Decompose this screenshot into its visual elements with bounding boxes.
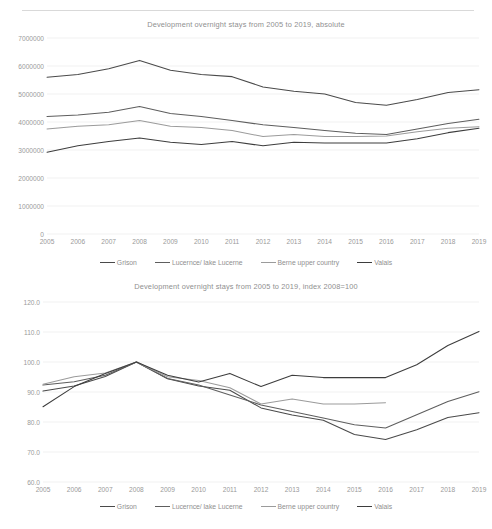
series-line-1 <box>47 107 479 135</box>
legend-swatch-icon <box>357 506 372 508</box>
page-header <box>0 0 492 16</box>
x-tick-label: 2008 <box>132 238 147 245</box>
legend-swatch-icon <box>261 506 276 508</box>
y-tick-label: 100.0 <box>23 359 40 366</box>
legend-swatch-icon <box>261 262 276 264</box>
x-tick-label: 2012 <box>256 238 271 245</box>
legend-entry-0[interactable]: Grison <box>100 503 137 510</box>
legend-swatch-icon <box>100 262 115 264</box>
legend-swatch-icon <box>100 506 115 508</box>
y-tick-label: 6000000 <box>18 63 44 70</box>
chart-index-title: Development overnight stays from 2005 to… <box>0 282 492 291</box>
series-line-3 <box>43 331 479 406</box>
x-tick-label: 2019 <box>472 486 487 493</box>
y-tick-label: 5000000 <box>18 91 44 98</box>
x-tick-label: 2016 <box>379 238 394 245</box>
y-tick-label: 2000000 <box>18 175 44 182</box>
x-tick-label: 2010 <box>191 486 206 493</box>
x-tick-label: 2005 <box>36 486 51 493</box>
legend-label: Berne upper country <box>278 503 340 510</box>
x-tick-label: 2005 <box>40 238 55 245</box>
x-tick-label: 2010 <box>194 238 209 245</box>
chart-absolute-y-axis: 0100000020000003000000400000050000006000… <box>0 38 44 234</box>
chart-absolute: Development overnight stays from 2005 to… <box>0 20 492 280</box>
legend-label: Valais <box>374 259 392 266</box>
series-line-2 <box>43 362 386 404</box>
chart-absolute-plot <box>47 38 479 234</box>
chart-index-plot <box>43 302 479 482</box>
legend-entry-0[interactable]: Grison <box>100 259 137 266</box>
x-tick-label: 2009 <box>163 238 178 245</box>
legend-label: Valais <box>374 503 392 510</box>
series-line-0 <box>47 60 479 105</box>
x-tick-label: 2018 <box>441 486 456 493</box>
x-tick-label: 2015 <box>347 486 362 493</box>
legend-entry-3[interactable]: Valais <box>357 503 392 510</box>
chart-absolute-legend: GrisonLucernce/ lake LucerneBerne upper … <box>0 259 492 266</box>
x-tick-label: 2013 <box>285 486 300 493</box>
legend-entry-2[interactable]: Berne upper country <box>261 259 340 266</box>
chart-index-legend: GrisonLucernce/ lake LucerneBerne upper … <box>0 503 492 510</box>
x-tick-label: 2006 <box>67 486 82 493</box>
x-tick-label: 2016 <box>378 486 393 493</box>
y-tick-label: 120.0 <box>23 299 40 306</box>
x-tick-label: 2017 <box>410 238 425 245</box>
legend-entry-1[interactable]: Lucernce/ lake Lucerne <box>155 503 243 510</box>
x-tick-label: 2006 <box>71 238 86 245</box>
chart-index-y-axis: 60.070.080.090.0100.0110.0120.0 <box>0 302 40 482</box>
x-tick-label: 2014 <box>317 238 332 245</box>
y-tick-label: 1000000 <box>18 203 44 210</box>
legend-entry-3[interactable]: Valais <box>357 259 392 266</box>
y-tick-label: 7000000 <box>18 35 44 42</box>
x-tick-label: 2008 <box>129 486 144 493</box>
chart-index-x-axis: 2005200620072008200920102011201220132014… <box>43 486 479 498</box>
document-page: Development overnight stays from 2005 to… <box>0 0 492 529</box>
x-tick-label: 2015 <box>348 238 363 245</box>
y-tick-label: 0 <box>40 231 44 238</box>
x-tick-label: 2009 <box>160 486 175 493</box>
y-tick-label: 70.0 <box>27 449 40 456</box>
x-tick-label: 2007 <box>98 486 113 493</box>
legend-entry-1[interactable]: Lucernce/ lake Lucerne <box>155 259 243 266</box>
chart-absolute-title: Development overnight stays from 2005 to… <box>0 20 492 29</box>
legend-label: Lucernce/ lake Lucerne <box>172 259 243 266</box>
legend-swatch-icon <box>155 506 170 508</box>
y-tick-label: 90.0 <box>27 389 40 396</box>
series-line-2 <box>47 121 479 137</box>
x-tick-label: 2017 <box>409 486 424 493</box>
x-tick-label: 2007 <box>101 238 116 245</box>
legend-label: Berne upper country <box>278 259 340 266</box>
y-tick-label: 3000000 <box>18 147 44 154</box>
legend-label: Grison <box>117 503 137 510</box>
legend-entry-2[interactable]: Berne upper country <box>261 503 340 510</box>
x-tick-label: 2012 <box>254 486 269 493</box>
x-tick-label: 2013 <box>287 238 302 245</box>
header-rule <box>22 10 474 11</box>
x-tick-label: 2011 <box>225 238 239 245</box>
y-tick-label: 110.0 <box>24 329 40 336</box>
x-tick-label: 2014 <box>316 486 331 493</box>
y-tick-label: 80.0 <box>27 419 40 426</box>
x-tick-label: 2011 <box>223 486 237 493</box>
y-tick-label: 4000000 <box>18 119 44 126</box>
x-tick-label: 2018 <box>441 238 456 245</box>
legend-swatch-icon <box>357 262 372 264</box>
chart-absolute-x-axis: 2005200620072008200920102011201220132014… <box>47 238 479 250</box>
x-tick-label: 2019 <box>472 238 487 245</box>
y-tick-label: 60.0 <box>27 479 40 486</box>
legend-label: Grison <box>117 259 137 266</box>
legend-swatch-icon <box>155 262 170 264</box>
chart-index: Development overnight stays from 2005 to… <box>0 282 492 528</box>
legend-label: Lucernce/ lake Lucerne <box>172 503 243 510</box>
